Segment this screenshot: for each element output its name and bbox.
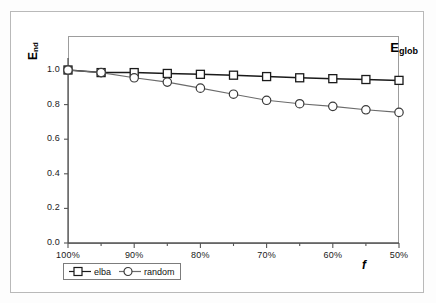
legend-label-random: random <box>144 267 175 277</box>
chart-figure: End Eglob f 0.00.20.40.60.81.0 100%90%80… <box>0 0 436 303</box>
series-group <box>64 66 403 117</box>
data-point-elba-6 <box>263 73 271 81</box>
chart-legend: elba random <box>63 263 181 280</box>
data-point-random-5 <box>229 90 237 98</box>
data-point-elba-7 <box>296 74 304 82</box>
data-point-random-2 <box>130 74 138 82</box>
data-point-elba-10 <box>395 76 403 84</box>
data-point-random-10 <box>395 108 403 116</box>
legend-item-random[interactable]: random <box>119 266 175 277</box>
data-point-random-3 <box>163 78 171 86</box>
data-point-elba-5 <box>230 71 238 79</box>
data-point-random-1 <box>97 68 105 76</box>
data-point-elba-4 <box>196 70 204 78</box>
legend-swatch-square-icon <box>69 266 91 277</box>
data-point-random-6 <box>262 96 270 104</box>
data-point-random-0 <box>64 66 72 74</box>
legend-swatch-circle-icon <box>119 266 141 277</box>
legend-item-elba[interactable]: elba <box>69 266 111 277</box>
data-point-elba-8 <box>329 75 337 83</box>
data-point-elba-9 <box>362 76 370 84</box>
chart-canvas <box>0 0 436 303</box>
axes-group <box>64 58 399 248</box>
data-point-random-7 <box>296 100 304 108</box>
data-point-random-9 <box>362 106 370 114</box>
data-point-elba-3 <box>163 69 171 77</box>
legend-label-elba: elba <box>94 267 111 277</box>
data-point-random-4 <box>196 84 204 92</box>
data-point-random-8 <box>329 102 337 110</box>
